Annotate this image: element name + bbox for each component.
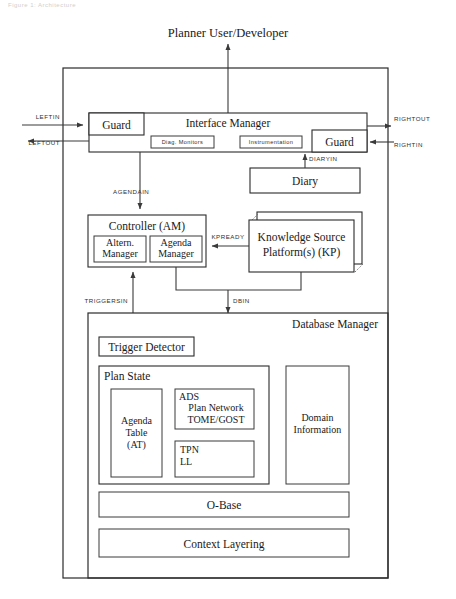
diary-label: Diary — [292, 175, 318, 188]
agendain-label: AGENDAIN — [113, 188, 149, 195]
obase-label: O-Base — [207, 499, 242, 511]
plan-state-label: Plan State — [104, 370, 150, 382]
altern-manager-label-1: Altern. — [106, 237, 134, 248]
page-top-caption: Figure 1: Architecture — [8, 2, 76, 8]
kp-stack-connector-bottom — [355, 264, 363, 272]
controller-label: Controller (AM) — [109, 220, 186, 233]
tpn-label: TPN — [180, 444, 199, 455]
altern-manager-label-2: Manager — [102, 248, 138, 259]
agenda-table-label-2: Table — [125, 427, 148, 438]
kp-label-2: Platform(s) (KP) — [263, 246, 341, 259]
actor-label: Planner User/Developer — [168, 26, 289, 40]
diaryin-label: DIARYIN — [309, 155, 338, 162]
trigger-detector-label: Trigger Detector — [108, 341, 185, 354]
interface-manager-label: Interface Manager — [186, 117, 271, 130]
diag-monitors-label: Diag. Monitors — [162, 139, 204, 145]
context-layering-label: Context Layering — [184, 538, 265, 551]
agenda-table-label-1: Agenda — [121, 415, 153, 426]
leftout-label: LEFTOUT — [28, 139, 60, 146]
rightout-label: RIGHTOUT — [394, 115, 430, 122]
agenda-table-label-3: (AT) — [127, 439, 146, 451]
triggersin-label: TRIGGERSIN — [84, 297, 128, 304]
rightin-label: RIGHTIN — [394, 141, 423, 148]
kpready-label: KPREADY — [211, 233, 244, 240]
database-manager-label: Database Manager — [292, 318, 378, 331]
agenda-manager-label-2: Manager — [158, 248, 194, 259]
architecture-diagram: Figure 1: Architecture Planner User/Deve… — [0, 0, 456, 599]
ads-plan-network-label: Plan Network — [188, 402, 243, 413]
ll-label: LL — [180, 456, 192, 467]
guard-left-label: Guard — [102, 119, 131, 131]
dbin-label: DBIN — [233, 297, 250, 304]
domain-information-label-1: Domain — [301, 412, 333, 423]
leftin-label: LEFTIN — [36, 113, 60, 120]
agenda-manager-label-1: Agenda — [160, 237, 192, 248]
guard-right-label: Guard — [325, 136, 354, 148]
instrumentation-label: Instrumentation — [249, 139, 294, 145]
domain-information-label-2: Information — [294, 424, 342, 435]
ads-tome-gost-label: TOME/GOST — [187, 414, 244, 425]
ads-label: ADS — [179, 391, 199, 402]
kp-label-1: Knowledge Source — [258, 231, 346, 244]
